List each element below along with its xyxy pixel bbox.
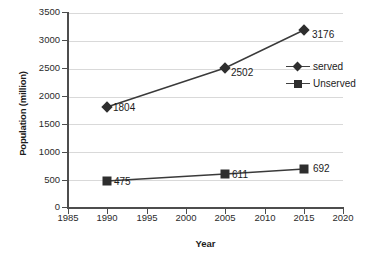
data-label-served-1990: 1804 bbox=[113, 103, 135, 113]
legend-marker-square-icon bbox=[286, 78, 310, 90]
legend-label-served: served bbox=[310, 61, 343, 72]
series-line-served bbox=[107, 30, 304, 107]
y-axis-title: Population (million) bbox=[17, 34, 28, 194]
data-label-unserved-1990: 475 bbox=[114, 177, 131, 187]
marker-served-1990 bbox=[101, 101, 112, 112]
series-line-unserved bbox=[107, 169, 304, 181]
legend-marker-diamond-icon bbox=[286, 61, 310, 73]
legend-item-unserved[interactable]: Unserved bbox=[286, 75, 380, 92]
data-label-unserved-2005: 611 bbox=[232, 170, 248, 180]
marker-unserved-1990 bbox=[103, 177, 112, 186]
x-axis-title: Year bbox=[68, 238, 343, 249]
legend-item-served[interactable]: served bbox=[286, 58, 380, 75]
marker-served-2015 bbox=[298, 24, 309, 35]
line-chart: 3500 3000 2500 2000 1500 1000 500 0 1985… bbox=[0, 0, 382, 260]
data-label-unserved-2015: 692 bbox=[313, 164, 330, 174]
marker-served-2005 bbox=[219, 62, 230, 73]
legend: served Unserved bbox=[286, 58, 380, 92]
data-label-served-2015: 3176 bbox=[312, 30, 334, 40]
marker-unserved-2015 bbox=[300, 165, 309, 174]
legend-label-unserved: Unserved bbox=[310, 78, 356, 89]
marker-unserved-2005 bbox=[221, 170, 230, 179]
data-label-served-2005: 2502 bbox=[231, 68, 253, 78]
